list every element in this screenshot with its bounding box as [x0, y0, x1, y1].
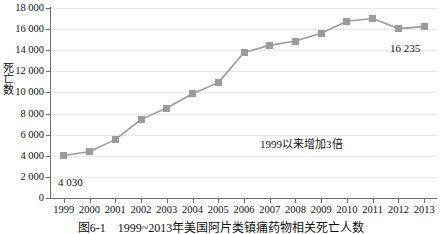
figure-container: 死亡数 02 0004 0006 0008 00010 00012 00014 …: [0, 0, 442, 234]
series-line: [0, 0, 442, 234]
figure-caption: 图6-1 1999~2013年美国阿片类镇痛药物相关死亡人数: [0, 221, 442, 234]
data-label-last: 16 235: [390, 42, 420, 54]
growth-annotation: 1999以来增加3倍: [260, 138, 343, 150]
data-label-first: 4 030: [58, 176, 83, 188]
